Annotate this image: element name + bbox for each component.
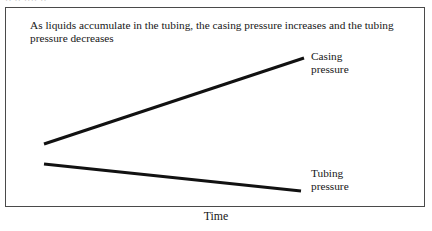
casing-pressure-label-line2: pressure [311,63,349,76]
cropped-text-remnant: ·· ·· ···· ·· [5,0,65,4]
pressure-vs-time-plot [6,8,426,208]
tubing-pressure-line [44,164,301,191]
tubing-pressure-label-line1: Tubing [311,167,349,180]
tubing-pressure-label: Tubing pressure [311,167,349,192]
figure-frame: As liquids accumulate in the tubing, the… [5,7,425,207]
casing-pressure-label: Casing pressure [311,50,349,75]
x-axis-title: Time [0,209,432,223]
casing-pressure-line [44,58,304,144]
tubing-pressure-label-line2: pressure [311,180,349,193]
casing-pressure-label-line1: Casing [311,50,349,63]
